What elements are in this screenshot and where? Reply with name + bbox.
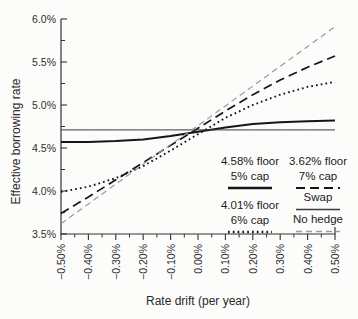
legend-label: Swap (282, 190, 354, 205)
series-line-collar-458-floor-5-cap (61, 121, 335, 143)
x-tick-label: −0.40% (82, 244, 94, 280)
legend-label: 6% cap (214, 213, 286, 228)
y-tick-label: 3.5% (32, 228, 56, 240)
legend-item-swap: Swap (282, 190, 354, 212)
legend-item-5-cap: 4.58% floor 5% cap (214, 154, 286, 191)
x-tick-label: 0.10% (219, 244, 231, 274)
legend-label: 7% cap (282, 169, 354, 184)
legend-label: 4.58% floor (214, 154, 286, 169)
y-tick-label: 4.5% (32, 142, 56, 154)
x-tick-label: −0.30% (110, 244, 122, 280)
legend-label: 5% cap (214, 169, 286, 184)
x-tick-label: 0.00% (192, 244, 204, 274)
legend-item-7-cap: 3.62% floor 7% cap (282, 154, 354, 191)
legend-label: No hedge (282, 212, 354, 227)
legend-sample-dotted-line-icon (227, 229, 273, 235)
x-tick-label: 0.40% (302, 244, 314, 274)
x-tick-label: −0.20% (137, 244, 149, 280)
y-tick-label: 4.0% (32, 185, 56, 197)
y-axis-title: Effective borrowing rate (9, 62, 24, 222)
x-tick-label: −0.10% (165, 244, 177, 280)
x-tick-label: 0.20% (247, 244, 259, 274)
y-tick-label: 5.0% (32, 99, 56, 111)
y-tick-label: 6.0% (32, 13, 56, 25)
legend-sample-gray-dash-line-icon (295, 229, 341, 234)
legend-label: 4.01% floor (214, 198, 286, 213)
legend-sample-solid-thick-line-icon (227, 185, 273, 191)
y-tick-label: 5.5% (32, 56, 56, 68)
legend-item-6-cap: 4.01% floor 6% cap (214, 198, 286, 235)
x-tick-label: −0.50% (55, 244, 67, 280)
borrowing-rate-chart: 3.5%4.0%4.5%5.0%5.5%6.0%−0.50%−0.40%−0.3… (0, 0, 358, 319)
x-tick-label: 0.30% (274, 244, 286, 274)
x-axis-title: Rate drift (per year) (98, 294, 298, 309)
legend-sample-thin-solid-line-icon (295, 207, 341, 212)
legend-item-no-hedge: No hedge (282, 212, 354, 234)
x-tick-label: 0.50% (329, 244, 341, 274)
legend-label: 3.62% floor (282, 154, 354, 169)
